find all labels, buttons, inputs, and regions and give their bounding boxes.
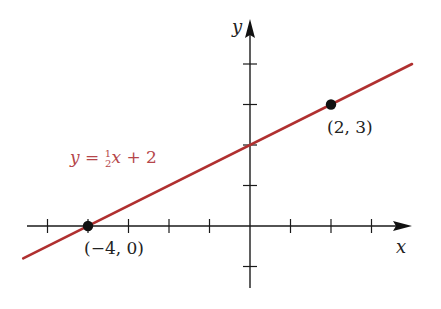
equation-label: y = 12x + 2: [69, 147, 157, 169]
point-label-2-3: (2, 3): [327, 117, 373, 137]
chart: x y y = 12x + 2 (−4, 0) (2, 3): [0, 0, 441, 309]
x-axis-label: x: [396, 236, 406, 257]
point-label-neg4-0: (−4, 0): [84, 238, 144, 258]
y-axis-label: y: [231, 16, 243, 37]
data-point: [326, 99, 336, 109]
data-point: [83, 221, 93, 231]
